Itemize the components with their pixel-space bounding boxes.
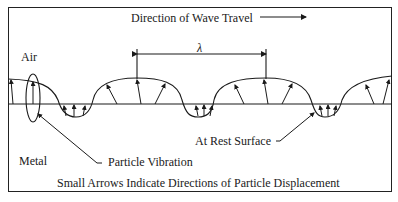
metal-label: Metal [19, 155, 47, 167]
displacement-arrows [11, 80, 389, 116]
wave-direction-label: Direction of Wave Travel [131, 12, 253, 24]
wavelength-label: λ [197, 42, 202, 54]
particle-vibration-label: Particle Vibration [108, 156, 193, 168]
air-label: Air [21, 51, 37, 63]
wave-profile [8, 76, 392, 117]
at-rest-surface-leader [280, 113, 314, 141]
caption: Small Arrows Indicate Directions of Part… [57, 177, 340, 189]
rayleigh-wave-diagram [0, 0, 398, 202]
at-rest-surface-label: At Rest Surface [195, 135, 271, 147]
